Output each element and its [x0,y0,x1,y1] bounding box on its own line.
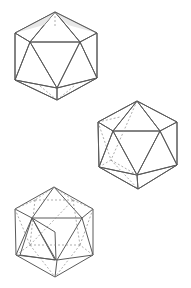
icosahedron-top [15,12,97,100]
icosahedron-middle [98,101,177,189]
icosahedron-bottom [15,187,93,277]
icosahedra-illustration [0,0,191,288]
